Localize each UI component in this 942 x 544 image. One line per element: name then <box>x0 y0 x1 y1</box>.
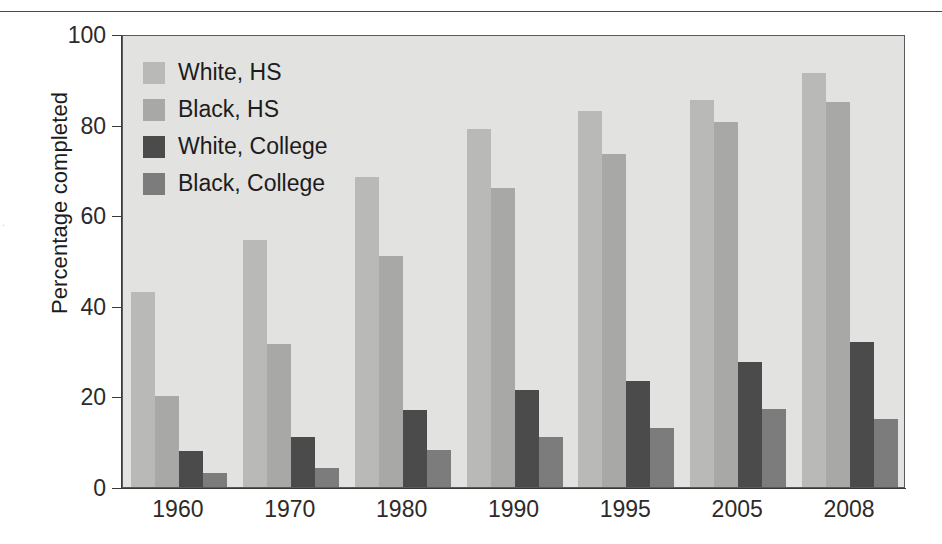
x-axis-tick-label: 1990 <box>454 496 574 523</box>
y-axis-tick-label: 40 <box>46 294 106 321</box>
bar-1990-black-college <box>539 437 563 487</box>
legend-swatch-white-hs <box>143 62 165 84</box>
legend-swatch-black-hs <box>143 99 165 121</box>
page-edge-artifact: . <box>2 215 8 229</box>
bar-2008-white-hs <box>802 73 826 487</box>
y-axis-tick-label: 20 <box>46 384 106 411</box>
bar-1990-black-hs <box>491 188 515 487</box>
bar-1970-black-hs <box>267 344 291 487</box>
legend-swatch-black-college <box>143 173 165 195</box>
bar-1995-white-hs <box>578 111 602 487</box>
bar-2005-black-hs <box>714 122 738 487</box>
bar-1980-white-hs <box>355 177 379 487</box>
figure-container: . Percentage completed 020406080100 Whit… <box>0 0 942 544</box>
legend-item: Black, College <box>143 165 328 202</box>
x-axis-tick-label: 2008 <box>789 496 909 523</box>
bar-2008-white-college <box>850 342 874 487</box>
bar-1970-black-college <box>315 468 339 487</box>
y-axis-tick-label: 80 <box>46 113 106 140</box>
bar-1970-white-hs <box>243 240 267 487</box>
legend-label-black-hs: Black, HS <box>178 96 279 123</box>
legend-item: White, College <box>143 128 328 165</box>
y-axis-tick-label: 0 <box>46 475 106 502</box>
legend-label-black-college: Black, College <box>178 170 325 197</box>
y-axis-tick-label: 60 <box>46 203 106 230</box>
bar-1990-white-college <box>515 390 539 487</box>
bar-2005-white-hs <box>690 100 714 487</box>
bar-1980-white-college <box>403 410 427 487</box>
bar-1990-white-hs <box>467 129 491 487</box>
bar-2008-black-college <box>874 419 898 487</box>
bar-1960-black-hs <box>155 396 179 487</box>
legend-item: White, HS <box>143 54 328 91</box>
x-axis-tick-label: 1980 <box>342 496 462 523</box>
x-axis-tick-label: 1970 <box>230 496 350 523</box>
plot-area: White, HS Black, HS White, College Black… <box>122 35 905 488</box>
x-axis-tick-label: 2005 <box>677 496 797 523</box>
bar-1995-black-college <box>650 428 674 487</box>
bar-1980-black-hs <box>379 256 403 487</box>
legend-swatch-white-college <box>143 136 165 158</box>
bar-1995-white-college <box>626 381 650 487</box>
x-axis-tick-label: 1995 <box>565 496 685 523</box>
bar-1960-black-college <box>203 473 227 487</box>
x-axis-tick-label: 1960 <box>118 496 238 523</box>
legend-item: Black, HS <box>143 91 328 128</box>
page-top-rule <box>0 11 942 12</box>
chart-legend: White, HS Black, HS White, College Black… <box>143 54 328 202</box>
bar-1970-white-college <box>291 437 315 487</box>
legend-label-white-hs: White, HS <box>178 59 282 86</box>
bar-1960-white-hs <box>131 292 155 487</box>
x-axis-line <box>113 488 906 489</box>
bar-1995-black-hs <box>602 154 626 487</box>
bar-1980-black-college <box>427 450 451 487</box>
bar-1960-white-college <box>179 451 203 487</box>
legend-label-white-college: White, College <box>178 133 328 160</box>
bar-2008-black-hs <box>826 102 850 487</box>
bar-2005-white-college <box>738 362 762 487</box>
bar-2005-black-college <box>762 409 786 487</box>
y-axis-tick-label: 100 <box>46 22 106 49</box>
